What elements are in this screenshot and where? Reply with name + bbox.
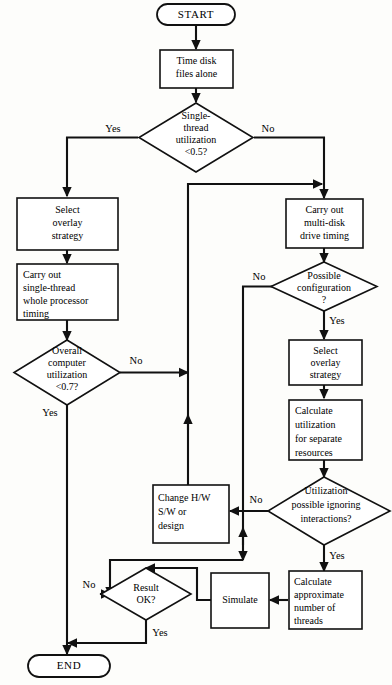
connector-possible-config-no xyxy=(243,287,274,561)
node-overall-util-line3: utilization xyxy=(47,369,88,380)
edge-label-single-thread-yes: Yes xyxy=(105,123,120,134)
node-start[interactable]: START xyxy=(157,4,235,25)
node-overall-util-line4: <0.7? xyxy=(56,381,79,392)
node-single-thread-line4: <0.5? xyxy=(185,146,208,157)
node-calculate-threads-line2: approximate xyxy=(294,589,345,600)
node-carry-out-multi-line1: Carry out xyxy=(305,204,343,215)
connector-single-thread-yes xyxy=(67,138,138,197)
node-single-thread-utilization-decision[interactable]: Single- thread utilization <0.5? xyxy=(139,103,253,172)
connector-single-thread-no xyxy=(254,138,324,199)
node-calculate-threads-line3: number of xyxy=(294,602,336,613)
node-change-hw-line3: design xyxy=(158,520,184,531)
edge-label-single-thread-no: No xyxy=(262,123,275,134)
edge-label-result-ok-no: No xyxy=(83,579,96,590)
node-result-ok-line2: OK? xyxy=(137,594,156,605)
node-select-overlay-right-line3: strategy xyxy=(310,369,342,380)
node-carry-out-multi-line2: multi-disk xyxy=(304,217,345,228)
node-time-disk-line2: files alone xyxy=(176,68,218,79)
node-calculate-threads-line1: Calculate xyxy=(294,576,332,587)
node-util-possible-line2: possible ignoring xyxy=(291,499,360,510)
node-select-overlay-left-line1: Select xyxy=(55,204,80,215)
node-overall-util-line2: computer xyxy=(48,357,86,368)
node-carry-out-single-thread-timing[interactable]: Carry out single-thread whole processor … xyxy=(17,264,118,320)
node-overall-computer-utilization-decision[interactable]: Overall computer utilization <0.7? xyxy=(14,340,120,405)
node-calculate-threads-line4: threads xyxy=(294,615,323,626)
node-simulate-label: Simulate xyxy=(222,594,258,605)
node-calculate-util-line4: resources xyxy=(295,447,333,458)
node-time-disk-line1: Time disk xyxy=(177,55,217,66)
node-carry-out-single-line2: single-thread xyxy=(23,282,75,293)
node-carry-out-single-line4: timing xyxy=(23,308,49,319)
node-util-possible-line1: Utilization xyxy=(305,485,348,496)
node-calculate-util-line3: for separate xyxy=(295,433,342,444)
node-select-overlay-right-line1: Select xyxy=(313,345,338,356)
node-carry-out-multi-line3: drive timing xyxy=(300,230,349,241)
node-possible-configuration-decision[interactable]: Possible configuration ? xyxy=(271,262,377,311)
node-result-ok-line1: Result xyxy=(133,582,159,593)
node-calculate-utilization-resources[interactable]: Calculate utilization for separate resou… xyxy=(289,400,362,460)
node-select-overlay-strategy-left[interactable]: Select overlay strategy xyxy=(17,198,118,250)
edge-label-overall-util-no: No xyxy=(130,355,143,366)
node-overall-util-line1: Overall xyxy=(52,345,82,356)
flowchart-canvas: START Time disk files alone Single- thre… xyxy=(0,0,392,685)
node-single-thread-line3: utilization xyxy=(176,134,217,145)
node-possible-config-line3: ? xyxy=(322,294,327,305)
node-time-disk-files-alone[interactable]: Time disk files alone xyxy=(160,50,233,88)
edge-label-util-possible-yes: Yes xyxy=(329,550,344,561)
node-select-overlay-left-line3: strategy xyxy=(52,230,84,241)
node-util-possible-line3: interactions? xyxy=(300,513,352,524)
node-carry-out-single-line1: Carry out xyxy=(23,269,61,280)
node-carry-out-single-line3: whole processor xyxy=(23,295,89,306)
connector-result-ok-yes xyxy=(68,620,146,643)
node-select-overlay-right-line2: overlay xyxy=(311,357,341,368)
edge-label-result-ok-yes: Yes xyxy=(152,627,167,638)
node-calculate-util-line2: utilization xyxy=(295,419,336,430)
node-end-label: END xyxy=(57,659,81,671)
node-select-overlay-strategy-right[interactable]: Select overlay strategy xyxy=(289,340,362,385)
node-change-hw-sw-design[interactable]: Change H/W S/W or design xyxy=(153,485,229,543)
node-calculate-util-line1: Calculate xyxy=(295,405,333,416)
node-end[interactable]: END xyxy=(28,655,110,677)
flowchart-page: START Time disk files alone Single- thre… xyxy=(0,0,392,685)
node-single-thread-line1: Single- xyxy=(182,110,211,121)
node-change-hw-line2: S/W or xyxy=(158,506,187,517)
node-calculate-approximate-threads[interactable]: Calculate approximate number of threads xyxy=(289,571,362,629)
node-result-ok-decision[interactable]: Result OK? xyxy=(101,568,191,620)
node-change-hw-line1: Change H/W xyxy=(158,492,211,503)
node-possible-config-line1: Possible xyxy=(307,270,341,281)
node-single-thread-line2: thread xyxy=(184,122,209,133)
edge-label-possible-config-yes: Yes xyxy=(329,315,344,326)
node-select-overlay-left-line2: overlay xyxy=(53,217,83,228)
node-carry-out-multi-disk-timing[interactable]: Carry out multi-disk drive timing xyxy=(286,199,363,248)
edge-label-possible-config-no: No xyxy=(253,271,266,282)
edge-label-util-possible-no: No xyxy=(250,494,263,505)
node-utilization-possible-ignoring-interactions-decision[interactable]: Utilization possible ignoring interactio… xyxy=(268,477,390,545)
node-possible-config-line2: configuration xyxy=(297,282,351,293)
node-start-label: START xyxy=(178,8,214,20)
edge-label-overall-util-yes: Yes xyxy=(42,407,57,418)
node-simulate[interactable]: Simulate xyxy=(211,573,269,628)
